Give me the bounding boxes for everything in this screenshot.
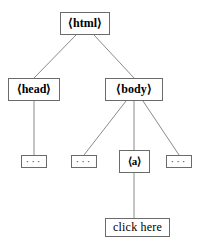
node-body: ⟨body⟩: [105, 78, 163, 101]
edge-body-ellipsis-2: [143, 101, 179, 155]
node-html: ⟨html⟩: [60, 12, 110, 35]
node-body-ellipsis-first-label: ···: [76, 156, 93, 167]
node-body-ellipsis-second: ···: [166, 155, 192, 168]
node-head: ⟨head⟩: [8, 78, 60, 101]
node-body-label: ⟨body⟩: [116, 82, 151, 97]
node-a: ⟨a⟩: [119, 150, 150, 173]
edge-html-body: [94, 35, 134, 78]
node-head-label: ⟨head⟩: [17, 82, 52, 97]
edge-body-ellipsis-1: [84, 101, 126, 155]
tree-edges: [0, 0, 208, 248]
node-body-ellipsis-first: ···: [71, 155, 97, 168]
node-head-ellipsis-label: ···: [26, 156, 43, 167]
node-click-here: click here: [105, 218, 170, 237]
dom-tree-diagram: ⟨html⟩ ⟨head⟩ ⟨body⟩ ··· ··· ⟨a⟩ ··· cli…: [0, 0, 208, 248]
node-click-here-label: click here: [113, 220, 162, 235]
node-body-ellipsis-second-label: ···: [171, 156, 188, 167]
node-a-label: ⟨a⟩: [128, 155, 142, 168]
edge-html-head: [34, 35, 76, 78]
node-head-ellipsis: ···: [21, 155, 47, 168]
node-html-label: ⟨html⟩: [68, 16, 102, 31]
